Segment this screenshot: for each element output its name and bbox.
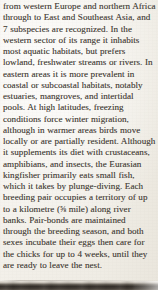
photograph-highlight [132, 281, 158, 290]
body-text-block: from western Europe and northern Africa … [3, 1, 156, 271]
body-text-part-1: from western Europe and northern Africa … [3, 1, 156, 214]
scanned-page: from western Europe and northern Africa … [0, 0, 158, 290]
photograph-top-edge [0, 281, 158, 290]
body-paragraph: from western Europe and northern Africa … [3, 1, 156, 271]
